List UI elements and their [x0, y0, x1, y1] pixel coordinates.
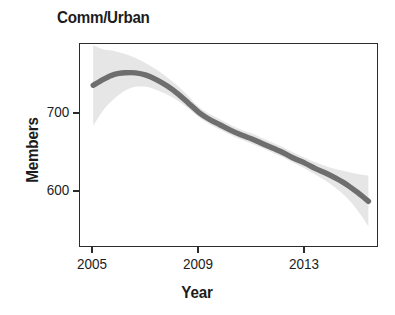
x-tick-mark	[91, 247, 93, 253]
x-tick-label: 2005	[64, 256, 120, 272]
x-axis-label-text: Year	[182, 283, 213, 302]
chart-canvas	[80, 44, 378, 247]
chart-figure: Comm/Urban Members 600700 200520092013 Y…	[0, 0, 395, 315]
x-tick-mark	[197, 247, 199, 253]
plot-area	[79, 43, 378, 247]
y-tick-label: 700	[46, 104, 69, 120]
chart-title: Comm/Urban	[57, 8, 150, 27]
trend-line	[93, 73, 368, 202]
x-axis-label: Year	[0, 283, 395, 302]
x-tick-mark	[303, 247, 305, 253]
x-tick-label: 2013	[276, 256, 332, 272]
y-axis-label-text: Members	[23, 117, 42, 182]
y-tick-label: 600	[46, 182, 69, 198]
y-axis-label: Members	[22, 100, 42, 200]
x-tick-label: 2009	[170, 256, 226, 272]
